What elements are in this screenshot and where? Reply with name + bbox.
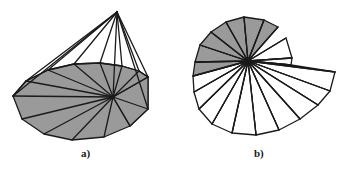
figure-panel: a) b) <box>0 0 355 170</box>
cone-hub-point <box>112 96 115 99</box>
cone-generator-edge-3 <box>74 12 117 64</box>
figure-illustration <box>0 0 355 170</box>
spiral-centre-point <box>246 59 250 63</box>
panel-a-cone-diagram <box>13 11 148 140</box>
panel-b-spiral-fan-diagram <box>193 17 335 135</box>
cone-apex-point <box>116 11 118 13</box>
panel-a-caption: a) <box>81 147 90 159</box>
panel-b-caption: b) <box>254 147 264 159</box>
